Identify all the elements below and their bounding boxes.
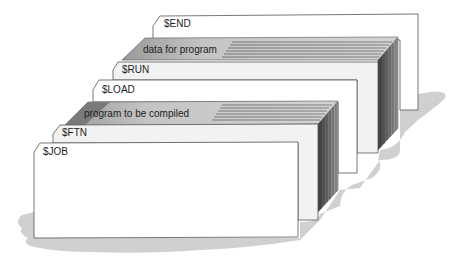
- job-card-label: $JOB: [43, 147, 68, 157]
- ftn-card-label: $FTN: [62, 128, 87, 138]
- end-card-label: $END: [164, 19, 191, 29]
- program-deck-label: program to be compiled: [84, 109, 189, 119]
- job-card: [34, 142, 298, 238]
- load-card-label: $LOAD: [102, 85, 135, 95]
- run-card-label: $RUN: [122, 65, 149, 75]
- data-deck-label: data for program: [143, 45, 217, 55]
